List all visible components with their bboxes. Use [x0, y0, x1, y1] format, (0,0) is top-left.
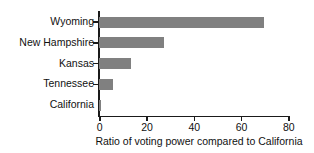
- y-axis-tick-label: California: [2, 99, 94, 110]
- bar-row-wyoming: [99, 12, 288, 33]
- bar-kansas: [99, 58, 131, 69]
- bar-chart: Wyoming New Hampshire Kansas Tennessee C…: [0, 0, 314, 153]
- y-axis-tick-label: Kansas: [2, 58, 94, 69]
- x-axis-tick-label: 80: [283, 121, 295, 133]
- y-axis-tick-label: Tennessee: [2, 78, 94, 89]
- y-axis-tick-label: New Hampshire: [2, 37, 94, 48]
- bar-row-kansas: [99, 54, 288, 75]
- y-axis-labels: Wyoming New Hampshire Kansas Tennessee C…: [0, 12, 94, 116]
- x-axis-tick-label: 40: [188, 121, 200, 133]
- bar-row-tennessee: [99, 74, 288, 95]
- bar-tennessee: [99, 79, 113, 90]
- x-axis-tick-label: 0: [97, 121, 103, 133]
- bar-wyoming: [99, 17, 264, 28]
- bar-row-california: [99, 95, 288, 116]
- x-axis-title: Ratio of voting power compared to Califo…: [0, 135, 314, 148]
- x-axis-tick-label: 60: [236, 121, 248, 133]
- x-axis-title-text: Ratio of voting power compared to Califo…: [95, 135, 302, 148]
- x-axis-tick-label: 20: [141, 121, 153, 133]
- bar-california: [99, 100, 101, 111]
- bar-new-hampshire: [99, 37, 164, 48]
- y-axis-tick-label: Wyoming: [2, 16, 94, 27]
- plot-area: [99, 12, 288, 116]
- bar-row-new-hampshire: [99, 33, 288, 54]
